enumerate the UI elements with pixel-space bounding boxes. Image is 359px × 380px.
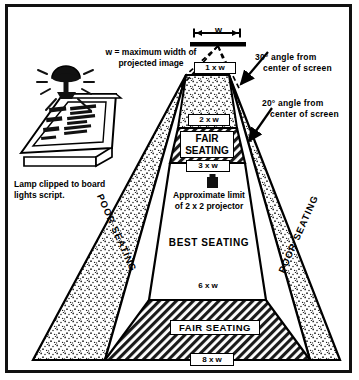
marker-1xw: 1 x w	[194, 62, 236, 74]
w-definition-line1: w = maximum width of	[106, 47, 197, 57]
lamp-caption-line1: Lamp clipped to board	[14, 179, 105, 189]
fair-seating-near-label: FAIR SEATING	[180, 131, 234, 158]
angle-30-callout: 30° angle from center of screen	[255, 52, 332, 73]
fair-seating-near-line1: FAIR	[196, 133, 219, 145]
best-seating-label: BEST SEATING	[152, 236, 266, 249]
seating-diagram-figure: w w = maximum width of projected image 3…	[0, 0, 359, 380]
fair-seating-near-line2: SEATING	[185, 145, 229, 157]
angle-20-line2: center of screen	[270, 109, 339, 120]
angle-30-line2: center of screen	[263, 63, 332, 74]
marker-3xw: 3 x w	[186, 160, 230, 172]
w-definition-caption: w = maximum width of projected image	[95, 47, 207, 69]
projector-limit-line2: of 2 x 2 projector	[175, 201, 244, 211]
angle-20-callout: 20° angle from center of screen	[262, 98, 339, 119]
projector-limit-caption: Approximate limit of 2 x 2 projector	[150, 190, 268, 212]
projector-limit-line1: Approximate limit	[173, 190, 245, 200]
angle-30-line1: 30° angle from	[255, 52, 316, 62]
screen-bar	[190, 42, 246, 47]
marker-8xw: 8 x w	[190, 353, 234, 366]
w-symbol-label: w	[215, 25, 222, 36]
w-definition-line2: projected image	[118, 58, 183, 68]
marker-2xw: 2 x w	[188, 114, 230, 126]
fair-seating-rear-label: FAIR SEATING	[170, 320, 260, 335]
lamp-caption-line2: lights script.	[14, 190, 65, 200]
marker-6xw: 6 x w	[186, 281, 230, 291]
angle-20-line1: 20° angle from	[262, 98, 323, 108]
lamp-and-board-illustration	[21, 66, 121, 166]
